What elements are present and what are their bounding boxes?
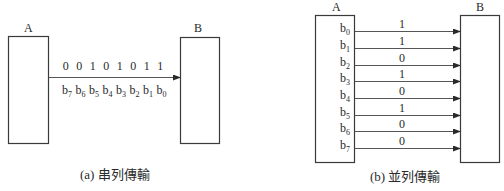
bit-value: 1 bbox=[86, 59, 100, 74]
parallel-bit-name: b1 bbox=[326, 39, 350, 56]
parallel-bit-value: 0 bbox=[392, 85, 412, 97]
parallel-bit-name: b5 bbox=[326, 106, 350, 123]
serial-sender-label: A bbox=[24, 22, 33, 34]
parallel-bit-name: b4 bbox=[326, 89, 350, 106]
parallel-receiver-box bbox=[461, 16, 500, 163]
parallel-bit-name: b0 bbox=[326, 22, 350, 39]
parallel-bit-name: b2 bbox=[326, 56, 350, 73]
parallel-bit-value: 1 bbox=[392, 18, 412, 30]
parallel-bit-value: 0 bbox=[392, 52, 412, 64]
serial-bit-values: 00101011 bbox=[59, 59, 167, 74]
parallel-sender-label: A bbox=[332, 1, 341, 13]
serial-receiver-label: B bbox=[194, 22, 202, 34]
parallel-bit-name: b6 bbox=[326, 122, 350, 139]
bit-name: b6 bbox=[76, 83, 90, 99]
parallel-bit-value: 1 bbox=[392, 35, 412, 47]
bit-name: b0 bbox=[157, 83, 171, 99]
parallel-receiver-label: B bbox=[476, 1, 484, 13]
bit-value: 0 bbox=[100, 59, 114, 74]
parallel-bit-value: 0 bbox=[392, 135, 412, 147]
parallel-bit-name: b7 bbox=[326, 139, 350, 156]
bit-name: b2 bbox=[130, 83, 144, 99]
serial-caption: (a) 串列傳輸 bbox=[80, 168, 150, 182]
bit-name: b3 bbox=[116, 83, 130, 99]
bit-value: 1 bbox=[113, 59, 127, 74]
bit-value: 1 bbox=[140, 59, 154, 74]
parallel-bit-value: 1 bbox=[392, 68, 412, 80]
serial-sender-box bbox=[9, 37, 49, 144]
bit-name: b1 bbox=[143, 83, 157, 99]
bit-value: 0 bbox=[127, 59, 141, 74]
bit-name: b5 bbox=[89, 83, 103, 99]
bit-name: b4 bbox=[103, 83, 117, 99]
parallel-bit-value: 0 bbox=[392, 118, 412, 130]
parallel-bit-name: b3 bbox=[326, 72, 350, 89]
bit-name: b7 bbox=[62, 83, 76, 99]
parallel-bit-value: 1 bbox=[392, 102, 412, 114]
bit-value: 0 bbox=[73, 59, 87, 74]
bit-value: 0 bbox=[59, 59, 73, 74]
parallel-caption: (b) 並列傳輸 bbox=[370, 170, 440, 184]
bit-value: 1 bbox=[154, 59, 168, 74]
serial-bit-names: b7b6b5b4b3b2b1b0 bbox=[62, 83, 170, 99]
serial-receiver-box bbox=[181, 38, 220, 144]
